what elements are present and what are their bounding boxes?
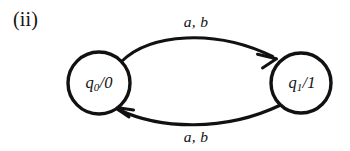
figure-canvas: (ii) q0/0 q1/1 a, b a, b	[0, 0, 350, 151]
transition-bottom-arc	[119, 106, 280, 125]
state-q0-name: q	[85, 73, 93, 92]
transition-label-bottom: a, b	[184, 129, 208, 145]
state-q1-name: q	[288, 73, 296, 92]
transition-label-top: a, b	[184, 14, 208, 30]
state-q1-output: 1	[307, 73, 315, 92]
state-label-q0: q0/0	[85, 75, 112, 93]
transition-q1-to-q0[interactable]	[115, 106, 280, 125]
transition-top-arc	[122, 38, 273, 62]
state-q0-output: 0	[104, 73, 112, 92]
transition-q0-to-q1[interactable]	[122, 38, 277, 68]
state-label-q1: q1/1	[288, 75, 315, 93]
figure-label: (ii)	[13, 9, 38, 29]
